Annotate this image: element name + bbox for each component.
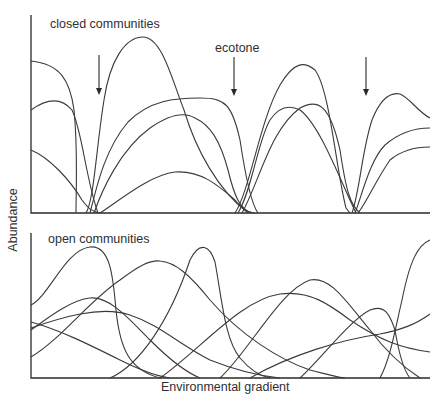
species-curve [31, 61, 77, 213]
species-curve [238, 107, 356, 213]
species-curve [94, 115, 252, 213]
species-curve [220, 280, 420, 378]
community-gradient-diagram [0, 0, 435, 403]
y-axis-label: Abundance [6, 185, 20, 255]
ecotone-arrow-1 [96, 55, 102, 95]
ecotone-label: ecotone [215, 41, 259, 55]
x-axis-label: Environmental gradient [161, 380, 290, 394]
species-curve [90, 98, 258, 213]
species-curve [242, 104, 360, 213]
species-curve [86, 37, 248, 213]
bottom-panel-axes [31, 233, 430, 378]
ecotone-arrow-2 [231, 57, 237, 96]
open-communities-label: open communities [48, 232, 149, 246]
species-curve [160, 293, 430, 378]
species-curve [358, 147, 430, 213]
ecotone-arrow-3 [363, 57, 369, 96]
closed-community-curves [31, 37, 430, 213]
species-curve [352, 94, 430, 213]
species-curve [31, 261, 345, 378]
species-curve [380, 240, 430, 378]
species-curve [31, 322, 170, 378]
species-curve [110, 247, 270, 378]
species-curve [100, 172, 254, 213]
species-curve [31, 101, 98, 213]
closed-communities-label: closed communities [50, 17, 160, 31]
open-community-curves [31, 240, 430, 378]
